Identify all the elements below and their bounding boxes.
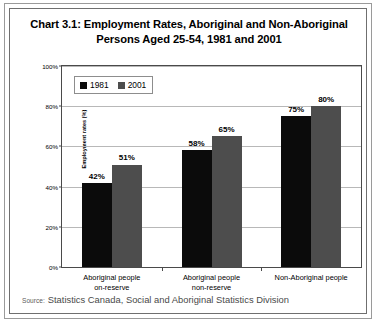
bar-value-label: 58% bbox=[188, 139, 204, 148]
x-axis-separator-tick bbox=[162, 267, 163, 271]
bar-value-label: 80% bbox=[318, 95, 334, 104]
plot-area: Employment rates (%) 0%20%40%60%80%100% … bbox=[61, 65, 362, 268]
legend-label: 1981 bbox=[90, 80, 109, 90]
x-axis-separator-tick bbox=[261, 267, 262, 271]
x-category-label: Non-Aboriginal people bbox=[275, 273, 348, 283]
bar-1981-2 bbox=[182, 150, 212, 267]
chart-title-line-2: Persons Aged 25-54, 1981 and 2001 bbox=[22, 32, 356, 47]
y-tick-label: 20% bbox=[46, 223, 58, 230]
x-category-label: Aboriginal peoplenon-reserve bbox=[183, 273, 240, 292]
legend-label: 2001 bbox=[128, 80, 147, 90]
chart-title-line-1: Chart 3.1: Employment Rates, Aboriginal … bbox=[22, 17, 356, 32]
x-category-label-line: Aboriginal people bbox=[183, 273, 240, 283]
legend-item-1981[interactable]: 1981 bbox=[80, 80, 109, 90]
x-category-label-line: Aboriginal people bbox=[83, 273, 140, 283]
chart-title: Chart 3.1: Employment Rates, Aboriginal … bbox=[22, 17, 356, 47]
gridline bbox=[62, 66, 361, 67]
legend-swatch-icon bbox=[80, 82, 87, 89]
x-category-label-line: Non-Aboriginal people bbox=[275, 273, 348, 283]
legend-item-2001[interactable]: 2001 bbox=[118, 80, 147, 90]
y-axis-title: Employment rates (%) bbox=[81, 79, 87, 199]
y-tick-label: 40% bbox=[46, 183, 58, 190]
bar-2001-2 bbox=[212, 136, 242, 267]
figure-outer-frame: Chart 3.1: Employment Rates, Aboriginal … bbox=[4, 3, 372, 319]
bar-2001-1 bbox=[112, 165, 142, 268]
bar-value-label: 65% bbox=[218, 125, 234, 134]
bar-1981-1 bbox=[82, 183, 112, 267]
bar-value-label: 75% bbox=[288, 105, 304, 114]
chart-legend: 19812001 bbox=[74, 76, 153, 94]
y-tick-mark bbox=[59, 267, 62, 268]
y-tick-label: 80% bbox=[46, 103, 58, 110]
bar-2001-3 bbox=[311, 106, 341, 267]
x-category-label-line: non-reserve bbox=[183, 283, 240, 293]
x-category-label: Aboriginal peopleon-reserve bbox=[83, 273, 140, 292]
y-tick-label: 100% bbox=[42, 63, 58, 70]
x-category-label-line: on-reserve bbox=[83, 283, 140, 293]
figure-inner-frame: Chart 3.1: Employment Rates, Aboriginal … bbox=[9, 8, 367, 314]
bar-value-label: 51% bbox=[119, 153, 135, 162]
source-line: Source: Statistics Canada, Social and Ab… bbox=[22, 294, 289, 305]
source-value: Statistics Canada, Social and Aboriginal… bbox=[48, 294, 289, 305]
bar-1981-3 bbox=[281, 116, 311, 267]
source-label: Source: bbox=[22, 297, 45, 304]
y-tick-label: 0% bbox=[49, 264, 58, 271]
bar-value-label: 42% bbox=[89, 172, 105, 181]
legend-swatch-icon bbox=[118, 82, 125, 89]
y-tick-label: 60% bbox=[46, 143, 58, 150]
